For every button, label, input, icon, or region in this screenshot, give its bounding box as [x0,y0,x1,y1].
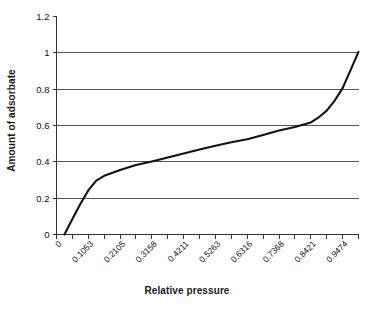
x-tick-label: 0.4211 [166,239,191,264]
y-axis-ticks [53,17,57,235]
y-tick-label: 0.4 [36,156,49,167]
x-tick-label: 0 [53,239,64,250]
x-axis-tick-labels: 00.10530.21050.31580.42110.52630.63160.7… [53,239,350,265]
x-tick-label: 0.5263 [197,239,223,265]
chart-container: Amount of adsorbate 00.20.40.60.811.2 00… [0,0,374,310]
plot-svg: 00.20.40.60.811.2 00.10530.21050.31580.4… [0,0,374,310]
x-tick-label: 0.6316 [229,239,255,265]
x-tick-label: 0.3158 [133,239,159,265]
isotherm-curve [64,52,358,235]
x-tick-label: 0.8421 [292,239,318,265]
y-tick-label: 0.8 [36,84,49,95]
x-tick-label: 0.1053 [70,239,96,265]
data-series [64,52,358,235]
x-tick-label: 0.9474 [324,239,350,265]
x-tick-label: 0.2105 [102,239,128,265]
y-tick-label: 0 [44,229,49,240]
y-tick-label: 0.2 [36,193,49,204]
y-tick-label: 1.2 [36,11,49,22]
y-tick-label: 0.6 [36,120,49,131]
y-axis-tick-labels: 00.20.40.60.811.2 [36,11,49,240]
x-tick-label: 0.7368 [260,239,286,265]
y-tick-label: 1 [44,47,49,58]
x-axis-ticks [57,235,359,239]
x-axis-title-wrap: Relative pressure [0,285,374,303]
x-axis-title: Relative pressure [144,285,229,296]
